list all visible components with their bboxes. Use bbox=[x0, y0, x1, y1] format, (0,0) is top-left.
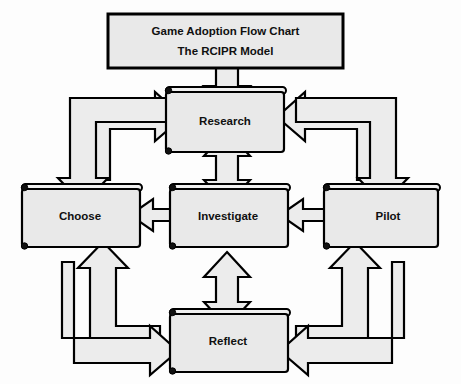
node-research-pin-top bbox=[165, 87, 171, 93]
node-reflect-body bbox=[170, 314, 288, 372]
node-reflect-pin-bottom bbox=[169, 368, 175, 374]
node-investigate-pin-top bbox=[169, 184, 175, 190]
title-box: Game Adoption Flow Chart The RCIPR Model bbox=[108, 14, 343, 68]
node-pilot-body bbox=[324, 189, 438, 247]
node-investigate[interactable]: Investigate bbox=[169, 184, 290, 249]
node-choose[interactable]: Choose bbox=[21, 184, 142, 249]
node-research[interactable]: Research bbox=[165, 87, 286, 154]
node-reflect-pin-top bbox=[169, 309, 175, 315]
node-reflect[interactable]: Reflect bbox=[169, 309, 290, 374]
connector-reflect-to-choose bbox=[78, 242, 160, 350]
node-investigate-pin-bottom bbox=[169, 243, 175, 249]
connector-choose-to-reflect bbox=[62, 262, 178, 375]
node-research-body bbox=[166, 92, 284, 152]
node-choose-pin-bottom bbox=[21, 243, 27, 249]
flowchart-canvas: Game Adoption Flow Chart The RCIPR Model… bbox=[0, 0, 461, 384]
flowchart-diagram: Game Adoption Flow Chart The RCIPR Model… bbox=[0, 0, 461, 384]
node-pilot[interactable]: Pilot bbox=[323, 184, 440, 249]
node-choose-pin-top bbox=[21, 184, 27, 190]
node-pilot-pin-top bbox=[323, 184, 329, 190]
node-investigate-body bbox=[170, 189, 288, 247]
node-research-pin-bottom bbox=[165, 148, 171, 154]
node-choose-body bbox=[22, 189, 140, 247]
node-pilot-pin-bottom bbox=[323, 243, 329, 249]
